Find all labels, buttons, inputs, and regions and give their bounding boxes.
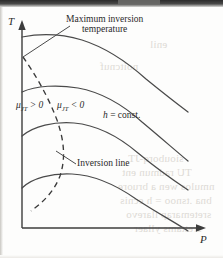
mu-relation: < 0	[68, 100, 84, 110]
h-const-rest: = const.	[108, 110, 141, 120]
isenthalp-curve-2	[22, 86, 188, 161]
y-axis-label: T	[8, 16, 14, 28]
axes-group	[18, 20, 206, 232]
leader-lines-group	[23, 26, 76, 164]
isenthalp-curves-group	[22, 35, 188, 231]
inversion-line-label: Inversion line	[77, 158, 130, 168]
inversion-line-curve	[23, 57, 64, 211]
mu-jt-positive-label: μJT > 0	[16, 100, 43, 112]
x-axis-label: P	[200, 234, 207, 246]
max-inversion-leader-line	[23, 26, 70, 57]
mu-jt-negative-label: μJT < 0	[57, 100, 84, 112]
diagram-svg	[0, 0, 223, 258]
figure-canvas: siouborq-JT TU radmun ent nmulos wen a b…	[0, 0, 223, 258]
isenthalp-curve-1	[22, 35, 188, 112]
max-inversion-temperature-label: Maximum inversion temperature	[66, 14, 143, 35]
h-const-label: h = const.	[103, 110, 140, 120]
x-axis-arrow	[196, 224, 206, 231]
isenthalp-curve-3	[22, 123, 188, 190]
inversion-line-leader-line	[56, 151, 76, 164]
max-inversion-line1: Maximum inversion	[66, 14, 143, 24]
max-inversion-line2: temperature	[82, 24, 127, 34]
mu-relation: > 0	[27, 100, 43, 110]
isenthalp-curve-4	[22, 174, 188, 231]
y-axis-arrow	[18, 20, 25, 30]
